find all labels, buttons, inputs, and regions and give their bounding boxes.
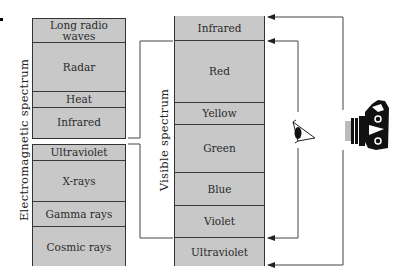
camera-arrow-bottom (268, 150, 343, 265)
eye-icon (293, 120, 315, 143)
connectors (0, 0, 405, 275)
camera-arrow-top (268, 17, 343, 110)
camera-icon (345, 100, 389, 150)
eye-arrow-bottom (268, 148, 298, 238)
bracket-lower (128, 144, 173, 238)
bracket-upper (128, 41, 173, 138)
eye-arrow-top (268, 41, 298, 112)
